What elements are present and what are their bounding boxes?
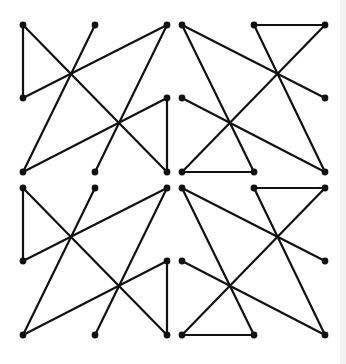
node-dot	[322, 185, 329, 192]
edge-line	[23, 98, 167, 172]
tile-top-right	[179, 22, 329, 176]
edge-strip	[340, 0, 346, 364]
edge-line	[182, 25, 325, 172]
node-dot	[20, 332, 27, 339]
node-dot	[251, 332, 258, 339]
node-dot	[322, 258, 329, 265]
diagram-tiles	[20, 22, 329, 339]
edge-line	[182, 98, 325, 172]
node-dot	[251, 169, 258, 176]
edge-line	[182, 188, 325, 335]
node-dot	[92, 332, 99, 339]
edge-line	[182, 25, 325, 98]
edge-line	[23, 188, 167, 335]
edge-line	[182, 25, 254, 172]
node-dot	[92, 185, 99, 192]
edge-line	[23, 25, 95, 172]
edge-line	[182, 188, 254, 335]
node-dot	[179, 258, 186, 265]
edge-line	[23, 261, 167, 335]
node-dot	[20, 185, 27, 192]
node-dot	[164, 22, 171, 29]
node-dot	[322, 22, 329, 29]
node-dot	[164, 332, 171, 339]
edge-line	[182, 261, 325, 335]
edge-line	[254, 25, 325, 172]
edge-line	[95, 188, 167, 335]
node-dot	[251, 22, 258, 29]
tile-bottom-right	[179, 185, 329, 339]
node-dot	[20, 258, 27, 265]
edge-line	[23, 188, 167, 261]
node-dot	[179, 185, 186, 192]
line-diagram	[0, 0, 346, 364]
edge-line	[23, 25, 167, 98]
node-dot	[92, 169, 99, 176]
node-dot	[322, 95, 329, 102]
edge-line	[254, 188, 325, 335]
tile-top-left	[20, 22, 171, 176]
node-dot	[164, 185, 171, 192]
node-dot	[20, 169, 27, 176]
edge-line	[23, 25, 167, 172]
edge-line	[182, 188, 325, 261]
node-dot	[20, 95, 27, 102]
tile-bottom-left	[20, 185, 171, 339]
node-dot	[179, 95, 186, 102]
edge-line	[23, 188, 95, 335]
node-dot	[322, 332, 329, 339]
node-dot	[164, 258, 171, 265]
node-dot	[164, 169, 171, 176]
node-dot	[251, 185, 258, 192]
node-dot	[179, 332, 186, 339]
edge-line	[95, 25, 167, 172]
node-dot	[20, 22, 27, 29]
node-dot	[92, 22, 99, 29]
node-dot	[322, 169, 329, 176]
node-dot	[164, 95, 171, 102]
node-dot	[179, 22, 186, 29]
node-dot	[179, 169, 186, 176]
